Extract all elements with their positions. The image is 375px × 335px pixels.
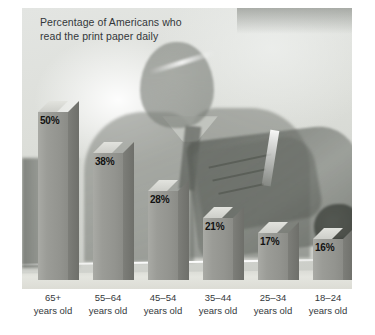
bar-4: 21% — [203, 207, 244, 280]
bar-value-label: 16% — [315, 242, 334, 253]
bar-side-face — [288, 222, 299, 280]
bar-6: 16% — [313, 228, 352, 280]
x-axis-label-6: 18–24 years old — [295, 292, 361, 317]
bar-side-face — [233, 207, 244, 280]
bar-top-face — [38, 101, 68, 112]
bar-front-face — [93, 153, 123, 280]
bar-top-face — [258, 222, 288, 233]
bar-value-label: 17% — [260, 236, 279, 247]
bar-2: 38% — [93, 142, 134, 280]
chart-title: Percentage of Americans who read the pri… — [40, 16, 270, 43]
bar-5: 17% — [258, 222, 299, 280]
chart-plot-area: 50%38%28%21%17%16% — [22, 8, 352, 289]
bar-top-face — [93, 142, 123, 153]
bar-side-face — [123, 142, 134, 280]
bar-top-face — [148, 180, 178, 191]
bar-3: 28% — [148, 180, 189, 280]
bar-side-face — [178, 180, 189, 280]
chart-figure: 50%38%28%21%17%16% Percentage of America… — [0, 0, 375, 335]
bar-value-label: 28% — [150, 194, 169, 205]
bar-top-face — [203, 207, 233, 218]
bar-1: 50% — [38, 101, 79, 280]
bar-value-label: 21% — [205, 221, 224, 232]
bar-top-face — [313, 228, 343, 239]
bar-value-label: 38% — [95, 156, 114, 167]
bar-value-label: 50% — [40, 115, 59, 126]
bar-front-face — [38, 112, 68, 280]
bar-side-face — [68, 101, 79, 280]
bar-side-face — [343, 228, 352, 280]
